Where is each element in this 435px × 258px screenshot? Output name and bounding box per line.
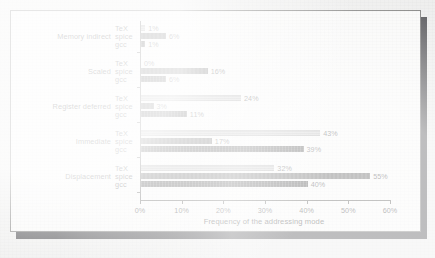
chart-plot-area: 0%10%20%30%40%50%60%Memory indirectTeX1%… (11, 11, 420, 231)
bar-value-label: 39% (307, 145, 322, 154)
x-axis-tick-label: 20% (208, 206, 238, 215)
bar-value-label: 1% (148, 24, 159, 33)
bar-value-label: 6% (169, 32, 180, 41)
y-axis-group-tick (137, 122, 140, 123)
bar-tex-memory-indirect (141, 25, 145, 31)
bar-spice-immediate (141, 138, 212, 144)
category-label: Memory indirect (7, 32, 111, 41)
bar-tex-displacement (141, 165, 274, 171)
bar-value-label: 1% (148, 40, 159, 49)
series-label-gcc: gcc (115, 145, 127, 154)
series-label-gcc: gcc (115, 110, 127, 119)
bar-gcc-displacement (141, 181, 308, 187)
y-axis-group-tick (137, 52, 140, 53)
bar-tex-immediate (141, 130, 320, 136)
y-axis-group-tick (137, 87, 140, 88)
bar-value-label: 40% (311, 180, 326, 189)
series-label-gcc: gcc (115, 40, 127, 49)
bar-gcc-scaled (141, 76, 166, 82)
bar-value-label: 6% (169, 75, 180, 84)
chart-figure-frame: 0%10%20%30%40%50%60%Memory indirectTeX1%… (10, 10, 421, 232)
x-axis-tick-label: 50% (333, 206, 363, 215)
bar-value-label: 0% (144, 59, 155, 68)
y-axis-group-tick (137, 157, 140, 158)
y-axis-group-tick (137, 192, 140, 193)
bar-tex-register-deferred (141, 95, 241, 101)
category-label: Immediate (7, 137, 111, 146)
bar-value-label: 55% (373, 172, 388, 181)
bar-gcc-immediate (141, 146, 304, 152)
x-axis-tick (223, 201, 224, 204)
x-axis-tick-label: 30% (250, 206, 280, 215)
bar-spice-register-deferred (141, 103, 154, 109)
x-axis-title: Frequency of the addressing mode (139, 217, 389, 226)
x-axis-tick-label: 60% (375, 206, 405, 215)
bar-value-label: 16% (211, 67, 226, 76)
x-axis-tick-label: 10% (167, 206, 197, 215)
series-label-gcc: gcc (115, 75, 127, 84)
category-label: Register deferred (7, 102, 111, 111)
bar-value-label: 17% (215, 137, 230, 146)
bar-gcc-register-deferred (141, 111, 187, 117)
bar-spice-memory-indirect (141, 33, 166, 39)
bar-gcc-memory-indirect (141, 41, 145, 47)
x-axis-tick-label: 40% (292, 206, 322, 215)
bar-spice-scaled (141, 68, 208, 74)
x-axis-tick (140, 201, 141, 204)
category-label: Scaled (7, 67, 111, 76)
bar-value-label: 24% (244, 94, 259, 103)
bar-value-label: 43% (323, 129, 338, 138)
series-label-gcc: gcc (115, 180, 127, 189)
x-axis-tick (265, 201, 266, 204)
bar-spice-displacement (141, 173, 370, 179)
x-axis-tick (182, 201, 183, 204)
x-axis-tick (307, 201, 308, 204)
category-label: Displacement (7, 172, 111, 181)
screenshot-canvas: 0%10%20%30%40%50%60%Memory indirectTeX1%… (0, 0, 435, 258)
x-axis-tick (348, 201, 349, 204)
x-axis-tick-label: 0% (125, 206, 155, 215)
bar-value-label: 32% (277, 164, 292, 173)
bar-value-label: 11% (190, 110, 204, 119)
bar-value-label: 3% (157, 102, 168, 111)
x-axis-tick (390, 201, 391, 204)
